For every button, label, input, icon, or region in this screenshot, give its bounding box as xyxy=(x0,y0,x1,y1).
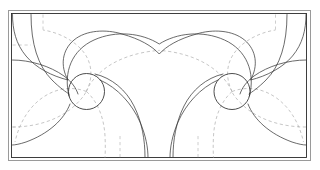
flow-figure-canvas xyxy=(0,0,320,170)
figure-background xyxy=(0,0,320,170)
vortex-flow-diagram xyxy=(0,0,320,170)
